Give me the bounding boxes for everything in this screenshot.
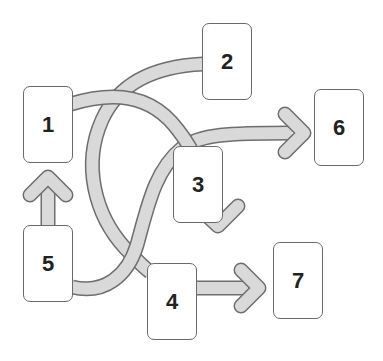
- edge-5-to-1: [30, 177, 66, 226]
- node-2: 2: [202, 23, 252, 100]
- node-4: 4: [147, 263, 197, 340]
- node-5-label: 5: [42, 251, 54, 277]
- node-6: 6: [314, 89, 364, 166]
- node-3-label: 3: [192, 172, 204, 198]
- node-5: 5: [23, 225, 73, 302]
- node-1: 1: [23, 86, 73, 163]
- node-4-label: 4: [166, 289, 178, 315]
- node-1-label: 1: [42, 112, 54, 138]
- node-7: 7: [273, 242, 323, 319]
- flow-diagram: .pipe-outer { fill: none; stroke: #6e6e6…: [0, 0, 383, 361]
- node-6-label: 6: [333, 115, 345, 141]
- node-7-label: 7: [292, 268, 304, 294]
- edge-4-to-7: [196, 270, 259, 306]
- node-3: 3: [173, 146, 223, 223]
- node-2-label: 2: [221, 49, 233, 75]
